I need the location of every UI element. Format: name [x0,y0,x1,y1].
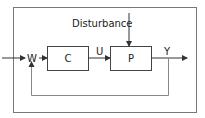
controller-label: C [65,53,72,64]
control-loop-diagram: W C U Disturbance P Y [0,0,205,118]
control-signal-label: U [96,46,103,57]
plant-label: P [128,53,134,64]
disturbance-label: Disturbance [72,18,133,29]
output-label: Y [163,46,171,57]
